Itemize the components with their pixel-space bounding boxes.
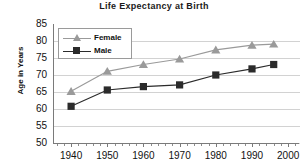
x-tick-minor [259, 144, 260, 146]
x-tick-minor [93, 144, 94, 146]
x-tick-minor [158, 144, 159, 146]
x-tick-minor [57, 144, 58, 146]
legend-label-male: Male [94, 45, 112, 57]
x-tick-minor [295, 144, 296, 146]
data-point-male [176, 81, 183, 88]
x-tick-minor [115, 144, 116, 146]
x-tick-minor [122, 144, 123, 146]
x-tick-minor [172, 144, 173, 146]
x-tick-minor [238, 144, 239, 146]
life-expectancy-chart: Life Expectancy at Birth Age in Years 50… [0, 0, 308, 165]
x-tick-minor [151, 144, 152, 146]
data-point-female [67, 87, 76, 95]
x-tick [288, 144, 289, 147]
legend: Female Male [58, 28, 132, 59]
legend-label-female: Female [94, 32, 122, 44]
x-tick-minor [274, 144, 275, 146]
x-tick-minor [223, 144, 224, 146]
data-point-male [248, 65, 255, 72]
x-tick [180, 144, 181, 147]
x-tick-minor [230, 144, 231, 146]
x-tick [252, 144, 253, 147]
x-tick [216, 144, 217, 147]
x-tick-minor [64, 144, 65, 146]
x-tick [143, 144, 144, 147]
x-tick-minor [129, 144, 130, 146]
x-tick-minor [136, 144, 137, 146]
x-tick-minor [201, 144, 202, 146]
data-point-male [212, 71, 219, 78]
x-tick-minor [86, 144, 87, 146]
x-tick-minor [100, 144, 101, 146]
x-tick-minor [245, 144, 246, 146]
x-tick-minor [187, 144, 188, 146]
data-point-male [270, 61, 277, 68]
square-marker-icon [73, 47, 80, 54]
x-tick-minor [266, 144, 267, 146]
series-layer [0, 0, 308, 165]
series-line-male [71, 65, 274, 107]
x-tick-minor [281, 144, 282, 146]
x-tick [107, 144, 108, 147]
x-tick-minor [165, 144, 166, 146]
data-point-male [140, 83, 147, 90]
data-point-male [68, 103, 75, 110]
x-tick [71, 144, 72, 147]
data-point-male [104, 86, 111, 93]
x-tick-minor [209, 144, 210, 146]
x-tick-minor [78, 144, 79, 146]
triangle-marker-icon [73, 34, 81, 41]
x-tick-minor [194, 144, 195, 146]
